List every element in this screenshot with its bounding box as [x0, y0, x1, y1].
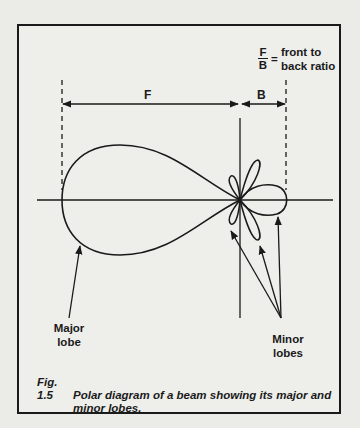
major-lobe-pointer — [69, 246, 80, 318]
major-lobe-label: Major lobe — [51, 321, 87, 349]
fb-fraction: F B — [258, 46, 268, 71]
minor-lobe-pointer-1 — [231, 231, 281, 318]
figure-number: Fig. 1.5 — [37, 376, 73, 402]
minor-lobe-pointer-2 — [260, 246, 281, 318]
upper-right-minor-lobe — [240, 160, 260, 200]
front-label: F — [144, 88, 151, 102]
legend-line-2: back ratio — [281, 60, 335, 72]
legend-line-1: front to — [281, 46, 321, 58]
equals-sign: = — [271, 53, 278, 65]
minor-lobes-label: Minor lobes — [268, 332, 308, 360]
minor-lobe-pointer-3 — [278, 217, 281, 318]
figure-caption: Fig. 1.5Polar diagram of a beam showing … — [37, 376, 331, 415]
lower-right-minor-lobe — [240, 200, 260, 240]
caption-line-1: Polar diagram of a beam showing its majo… — [73, 389, 331, 401]
back-label: B — [257, 88, 266, 102]
caption-line-2: minor lobes. — [37, 402, 331, 415]
